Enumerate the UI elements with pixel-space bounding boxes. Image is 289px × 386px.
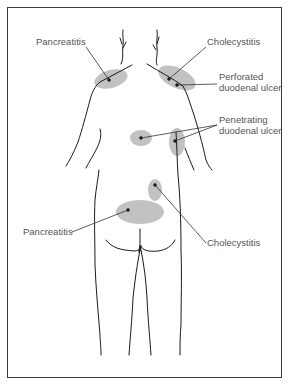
body-diagram <box>0 0 289 386</box>
label-text: Pancreatitis <box>36 36 86 47</box>
label-text: Pancreatitis <box>23 226 73 237</box>
label-text: Cholecystitis <box>207 237 260 248</box>
label-text-line1: Penetrating <box>219 114 281 125</box>
pain-area-right-shoulder <box>155 60 200 95</box>
label-penetrating-duodenal-ulcer: Penetrating duodenal ulcer <box>219 114 281 136</box>
label-text: Cholecystitis <box>207 36 260 47</box>
label-pancreatitis-back: Pancreatitis <box>23 226 73 237</box>
label-cholecystitis-shoulder: Cholecystitis <box>207 36 260 47</box>
label-pancreatitis-shoulder: Pancreatitis <box>36 36 86 47</box>
label-text-line2: duodenal ulcer <box>219 125 281 136</box>
label-text-line2: duodenal ulcer <box>219 82 281 93</box>
label-cholecystitis-back: Cholecystitis <box>207 237 260 248</box>
label-perforated-duodenal-ulcer: Perforated duodenal ulcer <box>219 71 281 93</box>
label-text-line1: Perforated <box>219 71 281 82</box>
pain-area-left-shoulder <box>92 66 130 92</box>
